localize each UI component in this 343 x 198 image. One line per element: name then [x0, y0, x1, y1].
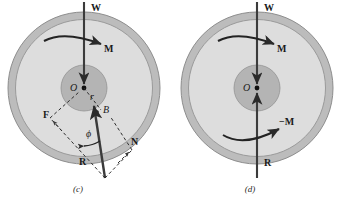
force-r-label-c: R [79, 156, 87, 167]
caption-panel-c: (c) [73, 184, 83, 194]
contact-label-b-c: B [103, 104, 109, 115]
center-label-o-c: O [70, 82, 77, 93]
couple-m-label-c: M [104, 43, 114, 54]
radius-r-label-c: r [90, 91, 94, 102]
center-point-d [255, 86, 260, 91]
center-label-o-d: O [243, 82, 250, 93]
force-w-label-d: W [264, 2, 274, 13]
couple-m-bottom-label-d: −M [279, 116, 295, 127]
caption-panel-d: (d) [245, 184, 256, 194]
angle-phi-label-c: ϕ [86, 128, 91, 139]
force-w-label-c: W [91, 2, 101, 13]
panel-c: W M O r B R F N ϕ (c) [8, 2, 160, 194]
component-f-label-c: F [43, 109, 49, 120]
panel-d: W R M −M O (d) [181, 2, 333, 194]
component-n-label-c: N [131, 136, 139, 147]
figure-free-body-diagrams: W M O r B R F N ϕ (c) [0, 0, 343, 198]
couple-m-top-label-d: M [277, 43, 287, 54]
force-r-label-d: R [264, 157, 272, 168]
